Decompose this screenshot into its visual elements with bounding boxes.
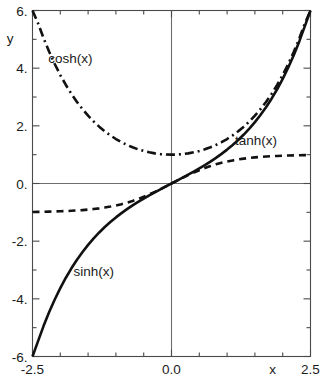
y-tick-label: -4. <box>12 292 28 307</box>
x-tick-label: 2.5 <box>301 362 320 377</box>
x-axis-title: x <box>269 362 276 377</box>
annotation-tanhx: tanh(x) <box>235 133 277 148</box>
x-tick-label: 0.0 <box>162 362 181 377</box>
y-axis-title: y <box>7 31 14 46</box>
y-tick-label: -6. <box>12 350 28 365</box>
y-tick-label: 6. <box>16 4 27 19</box>
hyperbolic-functions-chart: -2.50.02.56.4.2.0.-2.-4.-6. sinh(x)cosh(… <box>0 0 321 386</box>
plot-svg: -2.50.02.56.4.2.0.-2.-4.-6. sinh(x)cosh(… <box>0 0 321 386</box>
annotation-coshx: cosh(x) <box>48 51 92 66</box>
y-tick-label: 4. <box>16 61 27 76</box>
y-tick-label: 2. <box>16 119 27 134</box>
y-tick-label: 0. <box>16 177 27 192</box>
y-tick-label: -2. <box>12 234 28 249</box>
annotation-sinhx: sinh(x) <box>73 264 114 279</box>
